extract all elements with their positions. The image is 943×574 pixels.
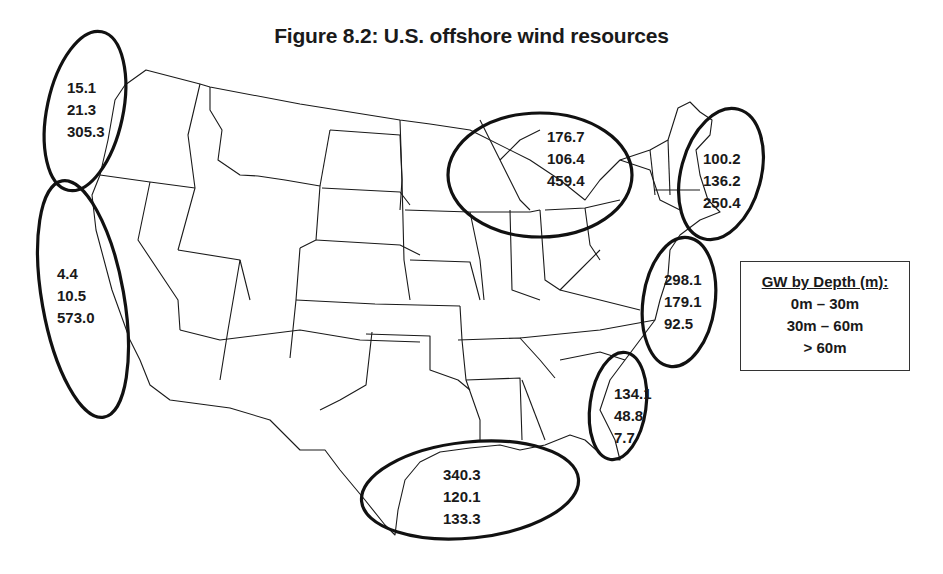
legend-item-over-60m: > 60m [741, 337, 909, 359]
value-30-60m: 136.2 [703, 170, 741, 192]
value-0-30m: 100.2 [703, 148, 741, 170]
value-0-30m: 134.1 [614, 383, 652, 405]
value-30-60m: 48.8 [614, 405, 652, 427]
value-over-60m: 92.5 [664, 313, 702, 335]
value-0-30m: 4.4 [57, 263, 95, 285]
region-label-new-england: 100.2 136.2 250.4 [703, 148, 741, 214]
value-over-60m: 459.4 [547, 170, 585, 192]
region-label-mid-atlantic: 298.1 179.1 92.5 [664, 269, 702, 335]
legend-item-0-30m: 0m – 30m [741, 293, 909, 315]
region-label-great-lakes: 176.7 106.4 459.4 [547, 126, 585, 192]
value-0-30m: 15.1 [67, 77, 105, 99]
legend-title: GW by Depth (m): [741, 271, 909, 293]
value-30-60m: 179.1 [664, 291, 702, 313]
region-label-south-atlantic: 134.1 48.8 7.7 [614, 383, 652, 449]
legend-box: GW by Depth (m): 0m – 30m 30m – 60m > 60… [740, 261, 910, 371]
value-30-60m: 10.5 [57, 285, 95, 307]
value-over-60m: 305.3 [67, 121, 105, 143]
value-0-30m: 176.7 [547, 126, 585, 148]
value-over-60m: 573.0 [57, 307, 95, 329]
value-over-60m: 133.3 [443, 508, 481, 530]
value-30-60m: 106.4 [547, 148, 585, 170]
region-label-gulf-of-mexico: 340.3 120.1 133.3 [443, 464, 481, 530]
region-label-pacific-northwest: 15.1 21.3 305.3 [67, 77, 105, 143]
value-30-60m: 21.3 [67, 99, 105, 121]
value-0-30m: 340.3 [443, 464, 481, 486]
value-30-60m: 120.1 [443, 486, 481, 508]
legend-item-30-60m: 30m – 60m [741, 315, 909, 337]
state-outlines [92, 70, 720, 535]
value-0-30m: 298.1 [664, 269, 702, 291]
value-over-60m: 250.4 [703, 192, 741, 214]
value-over-60m: 7.7 [614, 427, 652, 449]
region-label-california: 4.4 10.5 573.0 [57, 263, 95, 329]
